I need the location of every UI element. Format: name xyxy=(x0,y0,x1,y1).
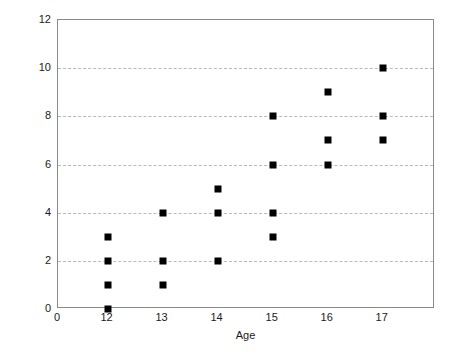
x-axis-tick-label: 13 xyxy=(155,311,167,324)
y-axis-tick-label: 6 xyxy=(5,158,51,169)
x-axis-title: Age xyxy=(57,329,434,342)
data-point xyxy=(379,65,386,72)
data-point xyxy=(269,233,276,240)
data-point xyxy=(104,257,111,264)
gridline xyxy=(58,261,433,262)
y-axis-tick-label: 12 xyxy=(5,14,51,25)
x-axis-tick-label: 14 xyxy=(210,311,222,324)
y-axis-tick-label: 10 xyxy=(5,62,51,73)
data-point xyxy=(269,161,276,168)
data-point xyxy=(324,161,331,168)
x-axis-tick-label: 17 xyxy=(376,311,388,324)
data-point xyxy=(324,137,331,144)
y-axis-tick-label: 2 xyxy=(5,254,51,265)
data-point xyxy=(214,185,221,192)
data-point xyxy=(159,209,166,216)
y-axis-tick-label: 4 xyxy=(5,206,51,217)
data-point xyxy=(104,281,111,288)
x-axis-tick-labels: 0121314151617 xyxy=(0,311,457,327)
scatter-plot-figure: 024681012 0121314151617 Age Number of De… xyxy=(0,0,457,360)
data-point xyxy=(214,209,221,216)
gridline xyxy=(58,165,433,166)
x-axis-tick-label: 16 xyxy=(321,311,333,324)
x-axis-tick-label: 15 xyxy=(266,311,278,324)
y-axis-tick-labels: 024681012 xyxy=(0,19,51,308)
gridline xyxy=(58,116,433,117)
gridline xyxy=(58,213,433,214)
data-point xyxy=(269,209,276,216)
data-point xyxy=(269,113,276,120)
plot-area xyxy=(57,19,434,308)
x-axis-tick-label: 12 xyxy=(100,311,112,324)
data-point xyxy=(379,113,386,120)
gridline xyxy=(58,68,433,69)
y-axis-tick-label: 8 xyxy=(5,110,51,121)
data-point xyxy=(379,137,386,144)
data-point xyxy=(159,257,166,264)
data-point xyxy=(159,281,166,288)
data-point xyxy=(104,233,111,240)
x-axis-tick-label: 0 xyxy=(54,311,60,324)
data-point xyxy=(324,89,331,96)
data-point xyxy=(214,257,221,264)
